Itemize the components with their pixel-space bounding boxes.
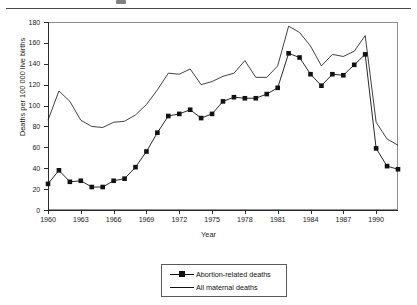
x-tick xyxy=(343,210,344,214)
data-point-marker xyxy=(79,178,84,183)
data-point-marker xyxy=(319,83,324,88)
data-point-marker xyxy=(111,178,116,183)
data-point-marker xyxy=(243,96,248,101)
x-tick-label: 1978 xyxy=(229,216,261,224)
data-point-marker xyxy=(221,99,226,104)
data-point-marker xyxy=(155,130,160,135)
data-point-marker xyxy=(385,164,390,169)
x-tick xyxy=(81,210,82,214)
data-point-marker xyxy=(396,167,401,172)
legend: Abortion-related deaths All maternal dea… xyxy=(161,264,287,297)
data-point-marker xyxy=(57,168,62,173)
x-tick xyxy=(48,210,49,214)
data-point-marker xyxy=(254,96,259,101)
legend-plain-line-icon xyxy=(168,281,196,293)
data-point-marker xyxy=(363,52,368,57)
y-axis-title: Deaths per 100 000 live births xyxy=(19,17,27,157)
page-top-rule xyxy=(6,8,411,9)
data-point-marker xyxy=(374,146,379,151)
x-tick xyxy=(212,210,213,214)
x-axis-line xyxy=(48,210,398,211)
data-point-marker xyxy=(144,149,149,154)
y-tick-label: 40 xyxy=(12,165,40,172)
x-tick xyxy=(114,210,115,214)
data-point-marker xyxy=(286,51,291,56)
data-point-marker xyxy=(122,176,127,181)
page-text-descender-artifact xyxy=(116,0,126,4)
data-point-marker xyxy=(100,185,105,190)
data-point-marker xyxy=(89,185,94,190)
x-tick-label: 1966 xyxy=(98,216,130,224)
y-tick-label: 20 xyxy=(12,186,40,193)
data-point-marker xyxy=(177,112,182,117)
x-tick-label: 1972 xyxy=(163,216,195,224)
data-point-marker xyxy=(210,112,215,117)
x-tick-label: 1984 xyxy=(295,216,327,224)
x-tick-label: 1981 xyxy=(262,216,294,224)
series-line-all-maternal-deaths xyxy=(48,26,398,145)
x-tick xyxy=(146,210,147,214)
data-point-marker xyxy=(232,95,237,100)
x-tick xyxy=(179,210,180,214)
data-point-marker xyxy=(68,180,73,185)
data-point-marker xyxy=(133,165,138,170)
data-point-marker xyxy=(341,73,346,78)
data-point-marker xyxy=(166,114,171,119)
data-point-marker xyxy=(352,63,357,68)
legend-item-all-maternal-deaths: All maternal deaths xyxy=(168,281,258,293)
data-point-marker xyxy=(297,55,302,60)
data-point-marker xyxy=(188,107,193,112)
x-tick xyxy=(245,210,246,214)
x-axis-title: Year xyxy=(0,231,417,239)
legend-marker-line-square-icon xyxy=(168,268,196,280)
x-tick-label: 1963 xyxy=(65,216,97,224)
x-tick xyxy=(278,210,279,214)
data-point-marker xyxy=(308,72,313,77)
data-series-layer xyxy=(48,22,398,210)
legend-label: Abortion-related deaths xyxy=(196,270,271,279)
legend-item-abortion-related-deaths: Abortion-related deaths xyxy=(168,268,271,280)
x-tick-label: 1975 xyxy=(196,216,228,224)
x-tick-label: 1990 xyxy=(360,216,392,224)
figure: 020406080100120140160180 196019631966196… xyxy=(0,0,417,305)
x-tick xyxy=(311,210,312,214)
data-point-marker xyxy=(330,72,335,77)
y-tick-label: 0 xyxy=(12,207,40,214)
data-point-marker xyxy=(275,86,280,91)
data-point-marker xyxy=(46,182,51,187)
data-point-marker xyxy=(264,92,269,97)
x-tick-label: 1987 xyxy=(327,216,359,224)
legend-label: All maternal deaths xyxy=(196,283,258,292)
x-tick-label: 1969 xyxy=(130,216,162,224)
x-tick-label: 1960 xyxy=(32,216,64,224)
x-tick xyxy=(376,210,377,214)
data-point-marker xyxy=(199,116,204,121)
